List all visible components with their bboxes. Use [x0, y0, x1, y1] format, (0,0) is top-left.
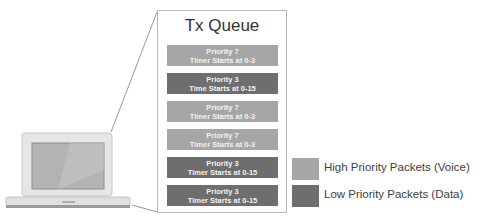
packet-timer: Timer Starts at 0-3 [167, 56, 278, 65]
packet-priority: Priority 7 [167, 47, 278, 56]
queue-title: Tx Queue [158, 16, 286, 36]
packet-high: Priority 7 Timer Starts at 0-3 [167, 101, 278, 122]
packet-high: Priority 7 Timer Starts at 0-3 [167, 129, 278, 150]
legend-swatch-low [292, 185, 319, 207]
packet-priority: Priority 7 [167, 131, 278, 140]
packet-priority: Priority 3 [167, 159, 278, 168]
packet-timer: Time Starts at 0-15 [167, 84, 278, 93]
tx-queue: Tx Queue Priority 7 Timer Starts at 0-3 … [157, 10, 287, 213]
packet-high: Priority 7 Timer Starts at 0-3 [167, 45, 278, 66]
packet-priority: Priority 3 [167, 75, 278, 84]
legend-swatch-high [292, 158, 319, 180]
packet-timer: Timer Starts at 0-3 [167, 140, 278, 149]
legend-label-high: High Priority Packets (Voice) [324, 161, 470, 173]
packet-timer: Timer Starts at 0-15 [167, 196, 278, 205]
packet-low: Priority 3 Timer Starts at 0-15 [167, 157, 278, 178]
laptop-icon [6, 133, 130, 208]
legend-label-low: Low Priority Packets (Data) [324, 188, 463, 200]
packet-low: Priority 3 Timer Starts at 0-15 [167, 185, 278, 206]
packet-low: Priority 3 Time Starts at 0-15 [167, 73, 278, 94]
packet-timer: Timer Starts at 0-15 [167, 168, 278, 177]
packet-priority: Priority 7 [167, 103, 278, 112]
packet-timer: Timer Starts at 0-3 [167, 112, 278, 121]
packet-priority: Priority 3 [167, 187, 278, 196]
